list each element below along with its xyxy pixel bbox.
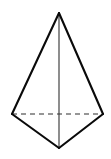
pyramid-figure (0, 0, 111, 159)
pyramid-diagram (0, 0, 111, 159)
